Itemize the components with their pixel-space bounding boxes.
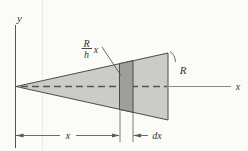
x-dimension: x [16, 130, 120, 141]
figure-cone-diagram: y x R h x R x [0, 0, 248, 151]
radius-tick-line [170, 52, 176, 63]
x-dimension-arrow-left [16, 133, 24, 137]
y-axis-label: y [16, 12, 22, 24]
x-dimension-arrow-right [112, 133, 120, 137]
x-dimension-label: x [65, 130, 71, 141]
fraction-numerator-label: R [82, 38, 89, 49]
dx-dimension-label: dx [152, 130, 162, 141]
dx-dimension-arrow [134, 133, 142, 137]
element-radius-label: R h x [82, 38, 99, 61]
diagram-canvas: y x R h x R x [0, 0, 248, 151]
fraction-denominator-label: h [84, 49, 89, 60]
fraction-multiplier-label: x [93, 44, 99, 55]
differential-element [120, 61, 134, 113]
dx-dimension: dx [134, 130, 163, 141]
x-axis-label: x [235, 81, 241, 92]
radius-label: R [179, 64, 187, 76]
